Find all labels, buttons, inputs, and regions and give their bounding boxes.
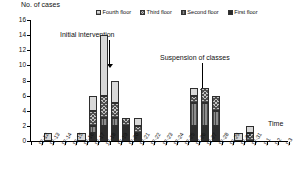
y-tick: [27, 65, 30, 66]
x-tick-label: 1-3: [285, 137, 294, 147]
x-axis-tick-labels: 12-1212-1312-1412-1512-1612-1712-1812-19…: [31, 144, 289, 173]
y-tick: [27, 96, 30, 97]
y-tick-label: 8: [22, 78, 26, 85]
bars-container: [31, 20, 288, 141]
bar-segment-f2: [100, 118, 108, 126]
y-tick-label: 14: [19, 32, 26, 39]
y-tick-label: 12: [19, 47, 26, 54]
legend-item-first-floor[interactable]: First floor: [228, 10, 258, 16]
bar-segment-f2: [190, 103, 198, 126]
bar-segment-f3: [190, 96, 198, 104]
legend-label-second-floor: Second floor: [187, 10, 218, 16]
y-tick-label: 4: [22, 108, 26, 115]
legend-item-second-floor[interactable]: Second floor: [181, 10, 219, 16]
y-tick: [27, 111, 30, 112]
y-tick: [27, 50, 30, 51]
bar-segment-f3: [111, 103, 119, 118]
bar-12-18[interactable]: [100, 35, 108, 141]
bar-segment-f4: [134, 118, 142, 126]
x-tick-label: 1-1: [263, 137, 272, 147]
y-tick: [27, 81, 30, 82]
legend-label-fourth-floor: Fourth floor: [103, 10, 132, 16]
bar-segment-f2: [201, 103, 209, 126]
legend-label-first-floor: First floor: [234, 10, 257, 16]
y-tick-label: 6: [22, 93, 26, 100]
bar-segment-f4: [190, 88, 198, 96]
plot-area: 0246810121416: [30, 20, 288, 142]
bar-segment-f3: [122, 118, 130, 126]
y-axis-title: No. of cases: [21, 1, 60, 8]
bar-segment-f2: [111, 118, 119, 126]
bar-segment-f4: [111, 81, 119, 104]
chart-root: No. of cases Time Fourth floor Third flo…: [0, 0, 300, 173]
legend-swatch-first-floor-icon: [228, 10, 233, 15]
bar-segment-f4: [89, 96, 97, 111]
bar-segment-f2: [212, 111, 220, 126]
legend-swatch-second-floor-icon: [181, 10, 186, 15]
y-tick-label: 16: [19, 17, 26, 24]
legend-label-third-floor: Third floor: [147, 10, 172, 16]
bar-segment-f3: [89, 111, 97, 126]
y-tick: [27, 141, 30, 142]
y-tick-label: 0: [22, 138, 26, 145]
bar-segment-f3: [212, 96, 220, 111]
y-tick-label: 10: [19, 62, 26, 69]
chart-legend: Fourth floor Third floor Second floor Fi…: [96, 10, 258, 16]
x-tick-label: 1-2: [274, 137, 283, 147]
legend-item-third-floor[interactable]: Third floor: [140, 10, 172, 16]
bar-segment-f3: [100, 96, 108, 119]
legend-swatch-fourth-floor-icon: [96, 10, 101, 15]
bar-segment-f4: [100, 35, 108, 96]
y-tick-label: 2: [22, 123, 26, 130]
bar-segment-f3: [201, 88, 209, 103]
legend-swatch-third-floor-icon: [140, 10, 145, 15]
legend-item-fourth-floor[interactable]: Fourth floor: [96, 10, 131, 16]
y-tick: [27, 35, 30, 36]
y-tick: [27, 20, 30, 21]
y-tick: [27, 126, 30, 127]
